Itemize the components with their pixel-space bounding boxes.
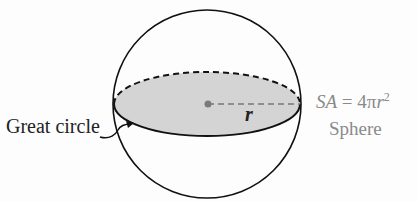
formula-equals: = (342, 91, 353, 112)
formula-exponent: 2 (384, 90, 390, 104)
surface-area-formula: SA = 4πr2 (316, 90, 390, 113)
formula-variable: r (376, 91, 383, 112)
shape-name-label: Sphere (329, 118, 382, 140)
sphere-diagram: Great circle r SA = 4πr2 Sphere (0, 0, 417, 201)
formula-coefficient: 4π (357, 91, 376, 112)
center-dot (205, 101, 212, 108)
formula-lhs: SA (316, 91, 337, 112)
great-circle-label: Great circle (6, 115, 100, 138)
radius-label: r (245, 103, 253, 126)
